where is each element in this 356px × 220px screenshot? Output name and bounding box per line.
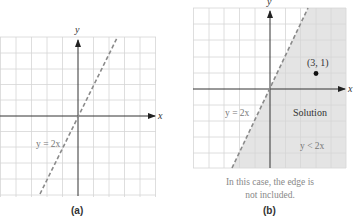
caption-line-1: In this case, the edge is	[226, 177, 314, 187]
panel-b: x y y = 2x (3, 1) Solution y < 2x In thi…	[193, 0, 353, 216]
panel-a: x y y = 2x (a)	[0, 24, 163, 216]
caption-line-2: not included.	[245, 190, 295, 200]
line-label-b: y = 2x	[225, 108, 250, 118]
line-label-a: y = 2x	[36, 139, 61, 149]
x-axis-label-b: x	[347, 83, 353, 94]
x-axis-label-a: x	[157, 110, 163, 121]
point-label: (3, 1)	[307, 57, 329, 69]
solution-label: Solution	[293, 107, 327, 118]
solution-region	[232, 8, 346, 168]
panel-label-b: (b)	[263, 205, 276, 216]
figure-canvas: x y y = 2x (a)	[0, 0, 356, 220]
test-point	[314, 71, 319, 76]
inequality-label: y < 2x	[300, 141, 325, 151]
panel-label-a: (a)	[71, 205, 83, 216]
y-axis-label-b: y	[266, 0, 272, 7]
y-axis-label-a: y	[74, 24, 80, 35]
